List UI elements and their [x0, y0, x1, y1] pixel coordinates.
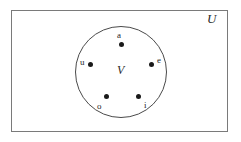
universal-set-label: U [207, 12, 216, 25]
element-point-i [136, 94, 141, 99]
element-point-o [104, 94, 109, 99]
element-label-u: u [80, 58, 85, 67]
element-label-e: e [157, 56, 161, 65]
element-label-o: o [97, 102, 102, 111]
element-label-a: a [117, 31, 121, 40]
element-label-i: i [144, 101, 147, 110]
element-point-u [88, 62, 93, 67]
element-point-e [149, 62, 154, 67]
element-point-a [119, 42, 124, 47]
subset-label-v: V [117, 64, 124, 76]
venn-diagram-figure: U V a u e o i [0, 0, 241, 142]
